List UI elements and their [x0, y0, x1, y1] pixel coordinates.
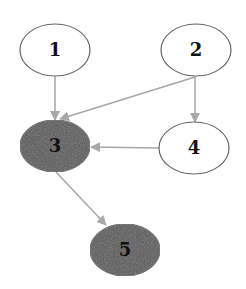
- node-3: 3: [20, 120, 90, 172]
- edge-4-to-3: [91, 147, 159, 148]
- node-label: 2: [190, 39, 203, 60]
- node-label: 3: [49, 135, 62, 156]
- node-label: 5: [119, 239, 132, 260]
- directed-graph: 12345: [0, 0, 246, 289]
- edge-3-to-5: [56, 172, 106, 225]
- node-label: 1: [49, 39, 62, 60]
- node-2: 2: [161, 24, 231, 76]
- edge-2-to-3: [60, 77, 195, 119]
- node-1: 1: [20, 24, 90, 76]
- node-label: 4: [188, 137, 201, 158]
- node-5: 5: [90, 224, 160, 276]
- node-4: 4: [159, 122, 229, 174]
- nodes-group: 12345: [20, 24, 231, 276]
